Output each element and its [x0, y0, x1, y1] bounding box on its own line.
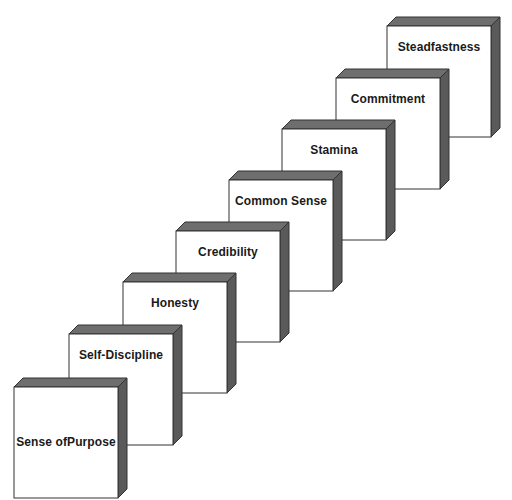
- step-box-sense-of-purpose: Sense ofPurpose: [14, 378, 128, 500]
- step-label-line: Sense of: [16, 434, 67, 450]
- step-label: Sense ofPurpose: [14, 386, 118, 498]
- step-label-line: Purpose: [67, 434, 116, 450]
